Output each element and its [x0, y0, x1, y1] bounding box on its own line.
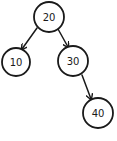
- node-10-label: 10: [10, 57, 23, 68]
- edge-20-to-10-arrow: [22, 28, 37, 49]
- edge-30-to-40-arrow: [82, 75, 91, 99]
- bst-diagram: 20 10 30 40: [0, 0, 117, 141]
- node-20: 20: [34, 2, 64, 32]
- node-20-label: 20: [43, 12, 56, 23]
- edge-20-to-30-arrow: [58, 29, 68, 47]
- node-30: 30: [58, 46, 88, 76]
- node-40: 40: [83, 98, 113, 128]
- node-10: 10: [2, 48, 30, 76]
- node-30-label: 30: [67, 56, 80, 67]
- node-40-label: 40: [92, 108, 105, 119]
